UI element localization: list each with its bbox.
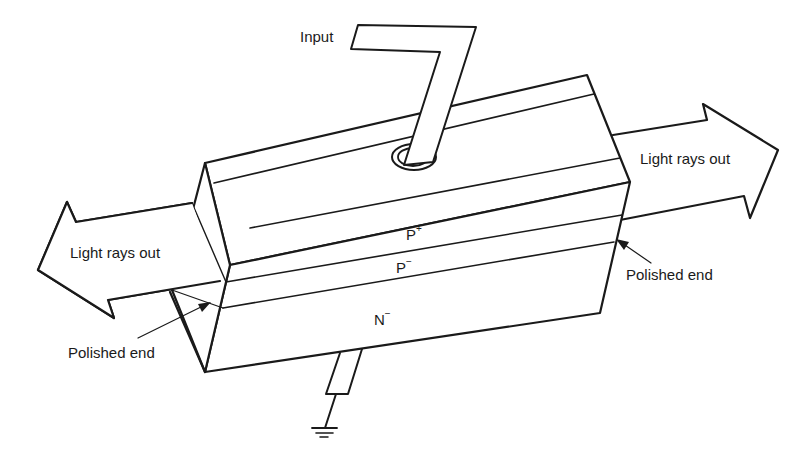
light-rays-out-left-label: Light rays out: [70, 244, 160, 261]
layer-n-minus: N−: [374, 310, 391, 328]
polished-end-left-label: Polished end: [68, 344, 155, 361]
layer-p-plus: P+: [406, 225, 422, 243]
ground-lead: [326, 349, 362, 394]
layer-p-minus: P−: [396, 258, 412, 276]
led-structure-diagram: [0, 0, 807, 463]
light-rays-out-right-label: Light rays out: [640, 150, 730, 167]
input-label: Input: [300, 28, 333, 45]
polished-end-right-label: Polished end: [626, 266, 713, 283]
